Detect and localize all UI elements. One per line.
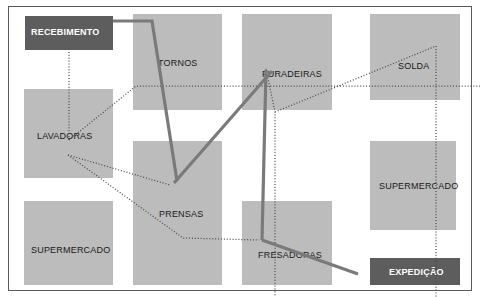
area-block-supermercado-esq[interactable] [24,201,113,285]
area-label-furadeiras: FURADEIRAS [262,70,322,79]
area-block-solda[interactable] [370,14,460,100]
area-label-lavadoras: LAVADORAS [37,132,92,141]
area-label-fresadoras: FRESADORAS [258,251,322,260]
area-block-fresadoras[interactable] [242,201,332,285]
area-label-tornos: TORNOS [158,59,198,68]
area-label-supermercado-dir: SUPERMERCADO [379,182,458,191]
factory-layout-diagram: RECEBIMENTOTORNOSFURADEIRASSOLDALAVADORA… [0,0,480,297]
area-label-supermercado-esq: SUPERMERCADO [31,246,110,255]
area-block-furadeiras[interactable] [242,14,332,110]
area-label-solda: SOLDA [398,62,430,71]
area-label-expedicao: EXPEDIÇÃO [389,268,444,277]
area-label-prensas: PRENSAS [159,210,203,219]
area-label-recebimento: RECEBIMENTO [31,28,100,37]
